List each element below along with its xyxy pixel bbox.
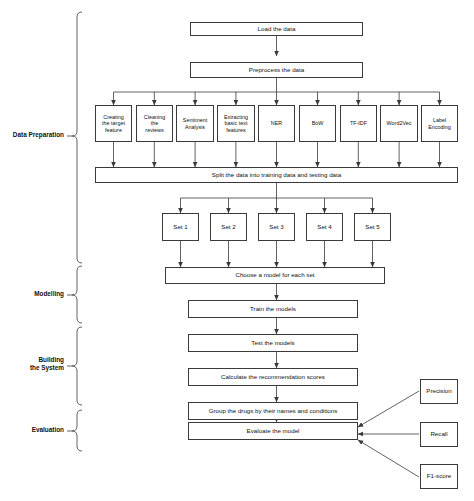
node-metric-precision-label: Precision — [424, 388, 453, 395]
node-feature-step-7-label: Word2Vec — [385, 120, 414, 126]
node-feature-step-4-label: NER — [269, 120, 284, 126]
node-evaluate-the-model[interactable]: Evaluate the model — [188, 422, 358, 440]
node-feature-step-3-label: Extracting basic text features — [222, 114, 250, 132]
node-choose-a-model-label: Choose a model for each set — [233, 272, 316, 279]
node-feature-step-0[interactable]: Creating the target feature — [95, 105, 132, 142]
node-train-the-models[interactable]: Train the models — [188, 300, 358, 318]
node-metric-recall-label: Recall — [428, 431, 449, 438]
phase-label-data-preparation: Data Preparation — [0, 131, 64, 139]
node-set-0[interactable]: Set 1 — [162, 213, 199, 241]
bracket-building-the-system — [72, 327, 82, 405]
node-set-4[interactable]: Set 5 — [354, 213, 391, 241]
node-calculate-the-recommendation-scores-label: Calculate the recommendation scores — [219, 374, 327, 381]
node-feature-step-5-label: BoW — [310, 120, 326, 126]
node-metric-f1-score-label: F1-score — [425, 473, 453, 480]
node-group-the-drugs[interactable]: Group the drugs by their names and condi… — [188, 402, 358, 420]
node-split-the-data[interactable]: Split the data into training data and te… — [95, 167, 458, 183]
node-split-the-data-label: Split the data into training data and te… — [210, 172, 343, 179]
node-load-the-data-label: Load the data — [256, 26, 298, 33]
phase-label-modelling: Modelling — [0, 290, 64, 298]
node-set-1-label: Set 2 — [219, 224, 237, 231]
node-feature-step-4[interactable]: NER — [258, 105, 295, 142]
node-set-4-label: Set 5 — [363, 224, 381, 231]
node-set-2-label: Set 3 — [267, 224, 285, 231]
edge-precision-to-evaluate — [358, 391, 419, 427]
node-feature-step-1-label: Cleaning the reviews — [142, 114, 167, 132]
node-feature-step-7[interactable]: Word2Vec — [380, 105, 418, 142]
edge-f1-to-evaluate — [358, 440, 419, 477]
node-feature-step-2[interactable]: Sentiment Analysis — [176, 105, 214, 142]
node-set-1[interactable]: Set 2 — [210, 213, 247, 241]
node-group-the-drugs-label: Group the drugs by their names and condi… — [207, 408, 340, 415]
node-metric-recall[interactable]: Recall — [420, 422, 458, 447]
node-test-the-models-label: Test the models — [249, 340, 296, 347]
node-feature-step-5[interactable]: BoW — [299, 105, 336, 142]
node-calculate-the-recommendation-scores[interactable]: Calculate the recommendation scores — [188, 368, 358, 386]
node-set-0-label: Set 1 — [171, 224, 189, 231]
node-feature-step-3[interactable]: Extracting basic text features — [217, 105, 255, 142]
node-feature-step-8[interactable]: Label Encoding — [421, 105, 458, 142]
phase-label-building-the-system: Building the System — [0, 356, 64, 372]
node-feature-step-8-label: Label Encoding — [426, 117, 452, 129]
node-set-3[interactable]: Set 4 — [306, 213, 343, 241]
phase-label-evaluation: Evaluation — [0, 426, 64, 434]
node-train-the-models-label: Train the models — [248, 306, 298, 313]
node-feature-step-6-label: TF-IDF — [348, 120, 369, 126]
node-set-3-label: Set 4 — [315, 224, 333, 231]
bracket-evaluation — [72, 410, 82, 451]
node-load-the-data[interactable]: Load the data — [190, 22, 363, 36]
node-feature-step-0-label: Creating the target feature — [100, 114, 127, 132]
node-feature-step-2-label: Sentiment Analysis — [181, 117, 209, 129]
bracket-data-preparation — [72, 12, 82, 263]
node-preprocess-the-data-label: Preprocess the data — [247, 67, 306, 74]
node-preprocess-the-data[interactable]: Preprocess the data — [190, 62, 363, 78]
node-feature-step-6[interactable]: TF-IDF — [340, 105, 377, 142]
node-test-the-models[interactable]: Test the models — [188, 334, 358, 352]
node-set-2[interactable]: Set 3 — [258, 213, 295, 241]
flowchart-canvas: Data Preparation Modelling Building the … — [0, 0, 474, 501]
node-feature-step-1[interactable]: Cleaning the reviews — [136, 105, 173, 142]
node-metric-f1-score[interactable]: F1-score — [420, 464, 458, 489]
node-choose-a-model[interactable]: Choose a model for each set — [165, 267, 385, 284]
node-evaluate-the-model-label: Evaluate the model — [245, 428, 302, 435]
bracket-modelling — [72, 266, 82, 323]
node-metric-precision[interactable]: Precision — [420, 379, 458, 404]
